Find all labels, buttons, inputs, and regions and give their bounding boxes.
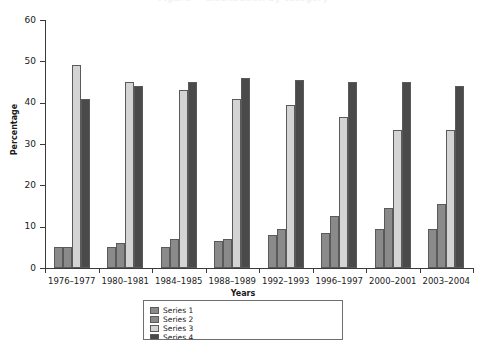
bar xyxy=(72,65,81,268)
bar xyxy=(134,86,143,268)
legend-label: Series 3 xyxy=(163,324,193,333)
legend-item: Series 3 xyxy=(150,324,193,333)
legend-label: Series 2 xyxy=(163,315,193,324)
bar xyxy=(170,239,179,268)
bar xyxy=(437,204,446,268)
bar xyxy=(179,90,188,268)
y-axis-tick-label: 30 xyxy=(0,140,36,149)
bar xyxy=(384,208,393,268)
bar xyxy=(295,80,304,268)
y-axis-tick-label: 20 xyxy=(0,181,36,190)
bar xyxy=(393,130,402,268)
x-axis-tick xyxy=(473,269,474,273)
bar xyxy=(63,247,72,268)
y-axis-tick-label: 0 xyxy=(0,264,36,273)
bar xyxy=(286,105,295,268)
x-axis-tick xyxy=(366,269,367,273)
bar xyxy=(428,229,437,268)
x-axis-tick-label: 1988–1989 xyxy=(202,276,262,286)
y-axis-tick-label: 40 xyxy=(0,98,36,107)
x-axis-tick xyxy=(206,269,207,273)
y-axis-tick-label: 50 xyxy=(0,57,36,66)
bar xyxy=(321,233,330,268)
bar xyxy=(402,82,411,268)
chart-title-text: Figure — distribution by category xyxy=(0,0,486,3)
x-axis-tick xyxy=(420,269,421,273)
y-axis-tick-label: 10 xyxy=(0,222,36,231)
x-axis-tick-label: 2003–2004 xyxy=(416,276,476,286)
x-axis-tick xyxy=(99,269,100,273)
bar xyxy=(232,99,241,268)
x-axis-tick xyxy=(313,269,314,273)
bar xyxy=(277,229,286,268)
legend-item: Series 2 xyxy=(150,315,193,324)
x-axis-tick-label: 1992–1993 xyxy=(256,276,316,286)
x-axis-tick-label: 2000–2001 xyxy=(363,276,423,286)
x-axis-tick xyxy=(152,269,153,273)
bar xyxy=(455,86,464,268)
bar xyxy=(375,229,384,268)
bar xyxy=(339,117,348,268)
legend-item: Series 4 xyxy=(150,333,193,340)
x-axis-tick-label: 1996–1997 xyxy=(309,276,369,286)
x-axis-tick xyxy=(259,269,260,273)
bar xyxy=(268,235,277,268)
bar xyxy=(161,247,170,268)
legend-swatch xyxy=(150,334,159,340)
bar xyxy=(330,216,339,268)
legend-label: Series 1 xyxy=(163,306,193,315)
plot-area xyxy=(45,20,473,268)
y-axis-tick-label: 60 xyxy=(0,16,36,25)
bar xyxy=(116,243,125,268)
x-axis-tick-label: 1976–1977 xyxy=(42,276,102,286)
bar xyxy=(125,82,134,268)
x-axis-tick-label: 1980–1981 xyxy=(95,276,155,286)
x-axis-title: Years xyxy=(0,289,486,298)
bar xyxy=(241,78,250,268)
bar xyxy=(223,239,232,268)
bar xyxy=(348,82,357,268)
bar xyxy=(81,99,90,268)
bar xyxy=(54,247,63,268)
x-axis-tick-label: 1984–1985 xyxy=(149,276,209,286)
bar xyxy=(107,247,116,268)
legend-swatch xyxy=(150,307,159,314)
chart-title-clipped: Figure — distribution by category xyxy=(0,0,486,7)
legend-item: Series 1 xyxy=(150,306,193,315)
legend-swatch xyxy=(150,316,159,323)
bar xyxy=(214,241,223,268)
chart-legend: Series 1Series 2Series 3Series 4 xyxy=(143,300,343,340)
legend-swatch xyxy=(150,325,159,332)
bar xyxy=(446,130,455,268)
x-axis-tick xyxy=(45,269,46,273)
legend-label: Series 4 xyxy=(163,333,193,340)
bar xyxy=(188,82,197,268)
